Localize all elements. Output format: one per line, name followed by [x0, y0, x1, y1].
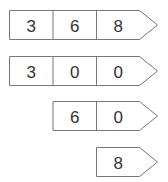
digit-cell: 3 — [27, 63, 36, 82]
digit-cell: 3 — [27, 17, 36, 36]
arrow-box-outline — [53, 102, 158, 131]
digit-cell: 6 — [70, 17, 79, 36]
arrow-box-outline — [97, 148, 158, 177]
digit-row-1: 368 — [10, 11, 158, 40]
digit-row-2: 300 — [10, 57, 158, 86]
digit-row-4: 8 — [97, 148, 158, 177]
digit-cell: 0 — [114, 108, 123, 127]
digit-cell: 8 — [114, 154, 123, 173]
digit-cell: 6 — [70, 108, 79, 127]
digit-cell: 0 — [70, 63, 79, 82]
digit-row-3: 60 — [53, 102, 158, 131]
digit-cell: 8 — [114, 17, 123, 36]
digit-cell: 0 — [114, 63, 123, 82]
digit-arrow-diagram: 368300608 — [0, 0, 168, 182]
